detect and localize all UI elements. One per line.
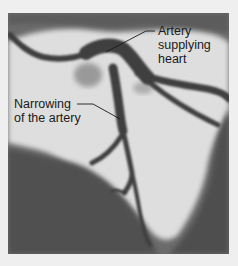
label-narrowing-of-artery: Narrowing of the artery — [14, 97, 81, 125]
label-narrowing-line-1: Narrowing — [14, 97, 81, 111]
label-narrowing-line-2: of the artery — [14, 111, 81, 125]
label-artery-line-2: supplying — [158, 38, 211, 52]
label-artery-supplying-heart: Artery supplying heart — [158, 24, 211, 66]
label-artery-line-3: heart — [158, 52, 211, 66]
label-artery-line-1: Artery — [158, 24, 211, 38]
angiogram-figure: Artery supplying heart Narrowing of the … — [0, 0, 238, 266]
